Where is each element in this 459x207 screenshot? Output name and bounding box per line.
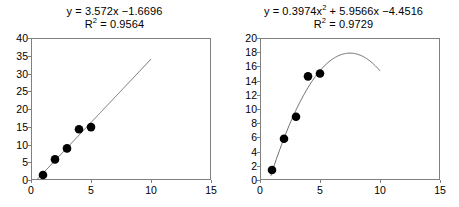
equation-text-pre: y = 0.3974x: [264, 5, 322, 17]
y-axis-tick-mark: [257, 52, 260, 53]
data-point: [280, 135, 289, 144]
x-axis-tick-mark: [211, 180, 212, 183]
y-axis-tick-mark: [28, 74, 31, 75]
y-axis-tick-label: 35: [16, 51, 28, 61]
r-squared-value: = 0.9729: [326, 18, 373, 30]
y-axis-tick-mark: [28, 38, 31, 39]
chart-panel-linear: y = 3.572x −1.6696 R2 = 0.9564 051015202…: [0, 0, 229, 207]
y-axis-tick-mark: [28, 162, 31, 163]
x-axis-tick-mark: [440, 180, 441, 183]
r-squared-value: = 0.9564: [97, 18, 144, 30]
y-axis-tick-label: 12: [245, 90, 257, 100]
r-squared-quadratic: R2 = 0.9729: [229, 18, 458, 31]
x-axis-tick-mark: [91, 180, 92, 183]
x-axis-tick-label: 15: [434, 185, 446, 195]
equation-text: y = 3.572x −1.6696: [67, 5, 163, 17]
regression-equation-linear: y = 3.572x −1.6696: [0, 5, 229, 18]
data-point: [39, 171, 48, 180]
plot-area-linear: 0510152025303540051015: [31, 38, 211, 180]
plot-graphics-quadratic: [260, 38, 440, 180]
x-axis-tick-mark: [380, 180, 381, 183]
equation-text-post: + 5.9566x −4.4516: [326, 5, 423, 17]
x-axis-tick-label: 0: [28, 185, 34, 195]
x-axis-tick-label: 10: [374, 185, 386, 195]
x-axis-tick-mark: [320, 180, 321, 183]
y-axis-tick-mark: [257, 152, 260, 153]
y-axis-tick-mark: [257, 123, 260, 124]
x-axis-tick-mark: [260, 180, 261, 183]
x-axis-tick-label: 10: [145, 185, 157, 195]
r-squared-linear: R2 = 0.9564: [0, 18, 229, 31]
y-axis-tick-label: 10: [245, 104, 257, 114]
y-axis-tick-mark: [28, 109, 31, 110]
data-point: [304, 72, 313, 81]
figure-container: y = 3.572x −1.6696 R2 = 0.9564 051015202…: [0, 0, 459, 207]
data-point: [63, 144, 72, 153]
y-axis-tick-mark: [28, 91, 31, 92]
x-axis-tick-label: 0: [257, 185, 263, 195]
x-axis-tick-mark: [31, 180, 32, 183]
data-point: [268, 166, 277, 175]
y-axis-tick-label: 14: [245, 76, 257, 86]
trendline: [271, 53, 380, 176]
y-axis-tick-label: 25: [16, 86, 28, 96]
x-axis-tick-label: 15: [205, 185, 217, 195]
y-axis-tick-label: 20: [245, 33, 257, 43]
data-point: [87, 123, 96, 132]
y-axis-tick-mark: [28, 127, 31, 128]
y-axis-tick-mark: [257, 95, 260, 96]
data-point: [51, 155, 60, 164]
plot-graphics-linear: [31, 38, 211, 180]
y-axis-tick-mark: [257, 137, 260, 138]
y-axis-tick-mark: [257, 166, 260, 167]
y-axis-tick-mark: [257, 109, 260, 110]
y-axis-tick-mark: [28, 56, 31, 57]
x-axis-tick-label: 5: [88, 185, 94, 195]
y-axis-tick-mark: [257, 38, 260, 39]
equation-annotation-linear: y = 3.572x −1.6696 R2 = 0.9564: [0, 5, 229, 31]
y-axis-tick-mark: [257, 66, 260, 67]
data-point: [292, 113, 301, 122]
x-axis-tick-label: 5: [317, 185, 323, 195]
y-axis-tick-mark: [257, 81, 260, 82]
x-axis-tick-mark: [151, 180, 152, 183]
y-axis-tick-label: 40: [16, 33, 28, 43]
y-axis-tick-mark: [28, 145, 31, 146]
data-point: [316, 69, 325, 78]
y-axis-tick-label: 15: [16, 122, 28, 132]
r-squared-symbol: R: [85, 18, 93, 30]
y-axis-tick-label: 16: [245, 61, 257, 71]
y-axis-tick-label: 20: [16, 104, 28, 114]
y-axis-tick-label: 18: [245, 47, 257, 57]
r-squared-symbol: R: [314, 18, 322, 30]
data-point: [75, 125, 84, 134]
plot-area-quadratic: 02468101214161820051015: [260, 38, 440, 180]
y-axis-tick-label: 10: [16, 140, 28, 150]
y-axis-tick-label: 30: [16, 69, 28, 79]
regression-equation-quadratic: y = 0.3974x2 + 5.9566x −4.4516: [229, 5, 458, 18]
equation-annotation-quadratic: y = 0.3974x2 + 5.9566x −4.4516 R2 = 0.97…: [229, 5, 458, 31]
chart-panel-quadratic: y = 0.3974x2 + 5.9566x −4.4516 R2 = 0.97…: [229, 0, 458, 207]
